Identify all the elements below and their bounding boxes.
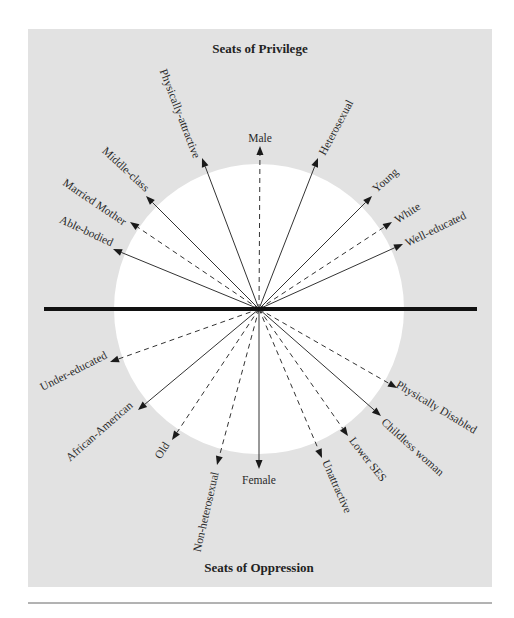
title-seats-of-privilege: Seats of Privilege: [212, 41, 308, 56]
privilege-oppression-diagram: Able-bodiedMarried MotherMiddle-classPhy…: [0, 0, 514, 618]
privilege-label-male: Male: [248, 132, 272, 144]
title-seats-of-oppression: Seats of Oppression: [204, 560, 314, 575]
oppression-label-female: Female: [242, 474, 276, 486]
